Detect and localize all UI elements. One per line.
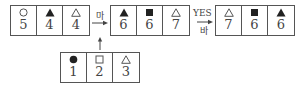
filled-square-icon bbox=[250, 8, 259, 17]
box-a: 5 4 4 bbox=[10, 5, 90, 36]
cell-value: 3 bbox=[113, 64, 139, 79]
box-b-cell-3: 7 bbox=[163, 6, 189, 35]
box-d: 1 2 3 bbox=[60, 52, 140, 83]
box-b: 6 6 7 bbox=[110, 5, 190, 36]
cell-value: 1 bbox=[61, 64, 86, 79]
arrow-up-icon bbox=[97, 37, 103, 50]
hollow-triangle-icon bbox=[224, 8, 234, 17]
cell-value: 2 bbox=[87, 64, 112, 79]
filled-triangle-icon bbox=[119, 8, 129, 17]
cell-value: 7 bbox=[163, 17, 189, 32]
cell-value: 6 bbox=[268, 17, 294, 32]
filled-triangle-icon bbox=[45, 8, 55, 17]
box-b-cell-1: 6 bbox=[111, 6, 137, 35]
filled-circle-icon bbox=[69, 55, 78, 64]
cell-value: 4 bbox=[63, 17, 89, 32]
arrow-right-icon bbox=[92, 20, 108, 26]
box-a-cell-3: 4 bbox=[63, 6, 89, 35]
cell-value: 4 bbox=[37, 17, 62, 32]
arrow-label-second: 바 bbox=[200, 26, 208, 36]
box-c: 7 6 6 bbox=[215, 5, 295, 36]
box-c-cell-2: 6 bbox=[242, 6, 268, 35]
arrow-condition-yes: YES bbox=[193, 8, 212, 18]
hollow-triangle-icon bbox=[71, 8, 81, 17]
cell-value: 6 bbox=[242, 17, 267, 32]
arrow-right-icon bbox=[197, 19, 213, 25]
hollow-triangle-icon bbox=[121, 55, 131, 64]
cell-value: 7 bbox=[216, 17, 241, 32]
box-d-cell-3: 3 bbox=[113, 53, 139, 82]
cell-value: 6 bbox=[111, 17, 136, 32]
box-d-cell-2: 2 bbox=[87, 53, 113, 82]
box-a-cell-1: 5 bbox=[11, 6, 37, 35]
filled-triangle-icon bbox=[276, 8, 286, 17]
filled-square-icon bbox=[145, 8, 154, 17]
box-c-cell-1: 7 bbox=[216, 6, 242, 35]
box-a-cell-2: 4 bbox=[37, 6, 63, 35]
box-c-cell-3: 6 bbox=[268, 6, 294, 35]
hollow-square-icon bbox=[95, 55, 104, 64]
cell-value: 6 bbox=[137, 17, 162, 32]
box-b-cell-2: 6 bbox=[137, 6, 163, 35]
cell-value: 5 bbox=[11, 17, 36, 32]
hollow-circle-icon bbox=[19, 8, 28, 17]
box-d-cell-1: 1 bbox=[61, 53, 87, 82]
hollow-triangle-icon bbox=[171, 8, 181, 17]
